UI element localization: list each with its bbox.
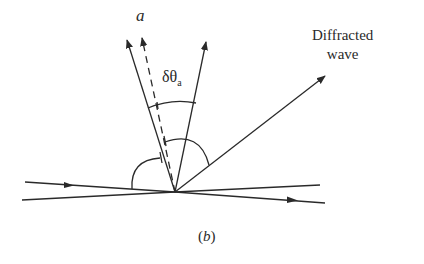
left-normal-arrow xyxy=(127,40,175,192)
crystal-plane-lower-left xyxy=(22,192,175,200)
vector-a-label: a xyxy=(136,6,145,26)
delta-theta-symbol: δθ xyxy=(162,68,177,85)
diffracted-label-line1: Diffracted xyxy=(312,26,373,45)
caption-letter: b xyxy=(203,228,211,244)
transmitted-beam-arrow-icon xyxy=(287,197,298,204)
diffracted-wave-label: Diffracted wave xyxy=(312,26,373,64)
right-normal-arrow xyxy=(175,42,206,192)
diffracted-wave-arrow xyxy=(175,76,325,192)
crystal-plane-upper-right xyxy=(175,185,320,192)
diffraction-angle-arc xyxy=(165,139,209,165)
incident-beam-line xyxy=(25,182,175,192)
delta-theta-label: δθa xyxy=(162,68,182,88)
incident-angle-arc xyxy=(132,158,160,189)
figure-caption: (b) xyxy=(198,228,216,245)
transmitted-beam-line xyxy=(175,192,325,203)
incident-angle-tick xyxy=(160,152,162,163)
diffracted-label-line2: wave xyxy=(312,45,373,64)
delta-theta-arc xyxy=(148,101,196,108)
incident-beam-arrow-icon xyxy=(64,182,74,188)
vector-a-dashed-arrow xyxy=(142,38,175,192)
delta-theta-subscript: a xyxy=(177,77,181,88)
